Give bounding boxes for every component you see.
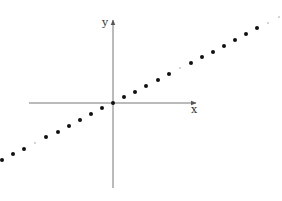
dot-sequence (0, 16, 280, 162)
data-point (56, 130, 60, 134)
faint-data-point (179, 67, 180, 68)
data-point (44, 135, 48, 139)
data-point (156, 78, 160, 82)
data-point (22, 147, 26, 151)
data-point (255, 26, 259, 30)
data-point (111, 101, 115, 105)
data-point (189, 61, 193, 65)
data-point (89, 112, 93, 116)
y-axis-label: y (101, 16, 109, 29)
data-point (133, 90, 137, 94)
faint-data-point (34, 142, 35, 143)
data-point (78, 118, 82, 122)
x-axis-label: x (191, 103, 198, 116)
coordinate-plane-diagram: x y (0, 0, 282, 201)
faint-data-point (267, 22, 268, 23)
data-point (222, 44, 226, 48)
data-point (0, 158, 4, 162)
data-point (244, 32, 248, 36)
data-point (167, 72, 171, 76)
data-point (100, 106, 104, 110)
data-point (200, 55, 204, 59)
data-point (122, 95, 126, 99)
data-point (211, 50, 215, 54)
data-point (67, 124, 71, 128)
data-point (233, 38, 237, 42)
faint-data-point (278, 16, 279, 17)
data-point (11, 152, 15, 156)
data-point (144, 84, 148, 88)
